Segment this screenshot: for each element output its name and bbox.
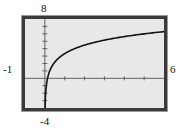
data-curve [45, 32, 164, 108]
y-axis-min-label: -4 [40, 116, 49, 127]
x-axis-min-label: -1 [3, 64, 12, 75]
curve-group [45, 32, 164, 108]
plot-area[interactable] [25, 19, 164, 108]
graph-widget: 8 -1 6 -4 [0, 0, 183, 132]
plot-canvas [25, 19, 164, 108]
plot-frame[interactable] [22, 16, 167, 111]
x-axis-max-label: 6 [170, 64, 176, 75]
y-axis-max-label: 8 [41, 3, 47, 14]
